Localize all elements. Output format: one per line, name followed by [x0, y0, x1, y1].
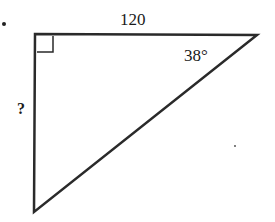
top-side-label: 120 — [120, 11, 146, 28]
unknown-side-label: ? — [17, 101, 25, 117]
triangle — [34, 34, 257, 212]
triangle-figure — [0, 0, 275, 222]
speck — [234, 145, 236, 147]
right-angle-marker — [37, 36, 53, 52]
angle-label: 38° — [184, 47, 208, 64]
bullet-dot — [2, 22, 6, 26]
